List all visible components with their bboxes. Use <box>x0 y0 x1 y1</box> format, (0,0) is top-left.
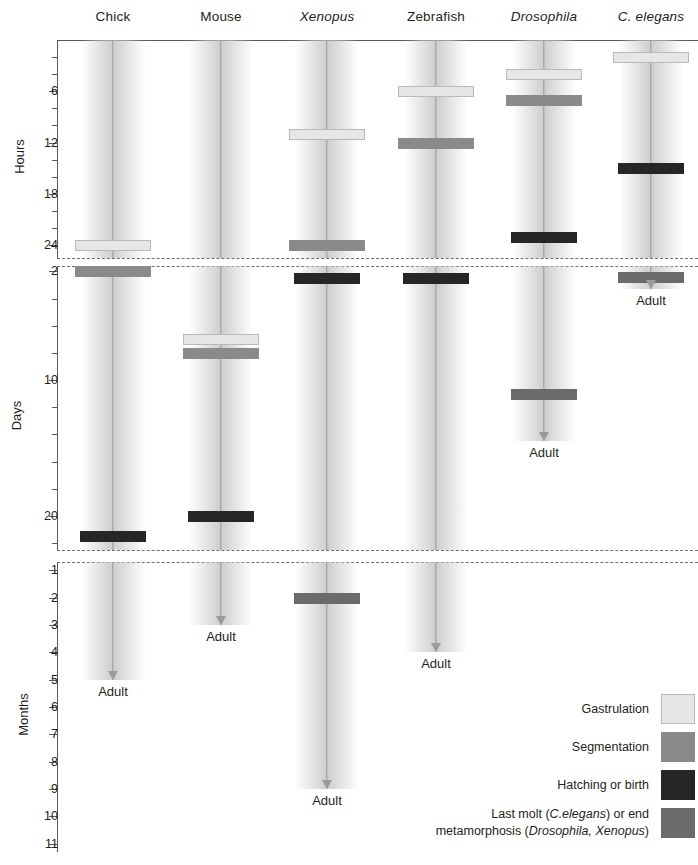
legend-swatch-segmentation <box>661 732 695 762</box>
tick-minor-days-22 <box>52 543 57 544</box>
adult-label-xenopus: Adult <box>312 793 342 808</box>
event-bar-c-elegans-hatching <box>618 163 684 174</box>
tick-label-months-1: 1 <box>18 563 58 577</box>
adult-arrow-c-elegans <box>646 280 656 289</box>
lifeline-chick <box>112 562 113 680</box>
tick-minor-hours-20 <box>52 211 57 212</box>
event-bar-mouse-gastrulation <box>183 334 259 345</box>
event-bar-zebrafish-segmentation <box>398 138 474 149</box>
lifeline-zebrafish <box>435 40 436 258</box>
event-bar-drosophila-segmentation <box>506 95 582 106</box>
adult-arrow-drosophila <box>539 432 549 441</box>
lifeline-mouse <box>220 40 221 258</box>
tick-minor-days-18 <box>52 489 57 490</box>
event-bar-drosophila-molt <box>511 389 577 400</box>
lifeline-xenopus <box>326 266 327 550</box>
tick-label-months-5: 5 <box>18 673 58 687</box>
tick-minor-days-14 <box>52 434 57 435</box>
event-bar-zebrafish-hatching <box>403 273 469 284</box>
tick-label-days-20: 20 <box>18 509 58 523</box>
tick-label-months-10: 10 <box>18 809 58 823</box>
axis-title-days: Days <box>9 401 24 431</box>
plot-top-border <box>57 40 698 41</box>
tick-label-months-9: 9 <box>18 782 58 796</box>
tick-minor-hours-8 <box>52 108 57 109</box>
adult-label-drosophila: Adult <box>529 445 559 460</box>
lifeline-zebrafish <box>435 266 436 550</box>
axis-line-days <box>57 266 58 550</box>
lifeline-xenopus <box>326 40 327 258</box>
legend-label-gastrulation: Gastrulation <box>413 701 649 718</box>
tick-label-days-10: 10 <box>18 373 58 387</box>
adult-arrow-chick <box>108 671 118 680</box>
legend-label-hatching: Hatching or birth <box>413 777 649 794</box>
column-header-zebrafish: Zebrafish <box>407 9 465 24</box>
tick-minor-hours-14 <box>52 160 57 161</box>
adult-arrow-mouse <box>216 616 226 625</box>
legend-row-molt: Last molt (C.elegans) or endmetamorphosi… <box>410 804 695 842</box>
tick-minor-hours-10 <box>52 125 57 126</box>
lifeline-drosophila <box>543 266 544 441</box>
column-header-mouse: Mouse <box>200 9 242 24</box>
legend-swatch-molt <box>661 808 695 838</box>
lifeline-chick <box>112 40 113 258</box>
event-bar-zebrafish-gastrulation <box>398 86 474 97</box>
tick-label-months-2: 2 <box>18 591 58 605</box>
axis-break-dashed-3 <box>57 562 698 563</box>
legend: GastrulationSegmentationHatching or birt… <box>410 690 695 842</box>
column-header-c-elegans: C. elegans <box>618 9 685 24</box>
legend-label-molt: Last molt (C.elegans) or endmetamorphosi… <box>413 806 649 840</box>
event-bar-chick-hatching <box>80 531 146 542</box>
event-bar-xenopus-molt <box>294 593 360 604</box>
event-bar-xenopus-segmentation <box>289 240 365 251</box>
tick-label-days-2: 2 <box>18 264 58 278</box>
axis-title-months: Months <box>16 693 31 736</box>
legend-swatch-gastrulation <box>661 694 695 724</box>
axis-break-dashed-0 <box>57 258 698 259</box>
adult-label-mouse: Adult <box>206 629 236 644</box>
axis-break-dashed-1 <box>57 266 698 267</box>
tick-minor-days-6 <box>52 326 57 327</box>
lifeline-zebrafish <box>435 562 436 652</box>
tick-minor-hours-2 <box>52 57 57 58</box>
event-bar-drosophila-gastrulation <box>506 69 582 80</box>
axis-break-dashed-2 <box>57 550 698 551</box>
event-bar-xenopus-gastrulation <box>289 129 365 140</box>
axis-title-hours: Hours <box>12 139 27 174</box>
legend-swatch-hatching <box>661 770 695 800</box>
tick-label-hours-6: 6 <box>18 84 58 98</box>
legend-row-segmentation: Segmentation <box>410 728 695 766</box>
adult-label-zebrafish: Adult <box>421 656 451 671</box>
tick-minor-days-12 <box>52 407 57 408</box>
event-bar-mouse-segmentation <box>183 348 259 359</box>
legend-row-gastrulation: Gastrulation <box>410 690 695 728</box>
legend-label-segmentation: Segmentation <box>413 739 649 756</box>
event-bar-chick-segmentation <box>75 266 151 277</box>
tick-label-months-4: 4 <box>18 645 58 659</box>
lifeline-c-elegans <box>650 40 651 258</box>
event-bar-xenopus-hatching <box>294 273 360 284</box>
adult-label-chick: Adult <box>98 684 128 699</box>
tick-label-hours-18: 18 <box>18 187 58 201</box>
tick-minor-days-8 <box>52 353 57 354</box>
event-bar-chick-gastrulation <box>75 240 151 251</box>
tick-minor-days-4 <box>52 299 57 300</box>
tick-label-months-11: 11 <box>18 837 58 851</box>
column-header-chick: Chick <box>96 9 131 24</box>
tick-label-months-3: 3 <box>18 618 58 632</box>
legend-row-hatching: Hatching or birth <box>410 766 695 804</box>
tick-label-hours-24: 24 <box>18 238 58 252</box>
tick-minor-hours-4 <box>52 74 57 75</box>
event-bar-drosophila-hatching <box>511 232 577 243</box>
adult-arrow-zebrafish <box>431 643 441 652</box>
lifeline-chick <box>112 266 113 550</box>
event-bar-mouse-hatching <box>188 511 254 522</box>
tick-minor-days-16 <box>52 462 57 463</box>
tick-minor-hours-16 <box>52 177 57 178</box>
column-header-drosophila: Drosophila <box>511 9 578 24</box>
adult-label-c-elegans: Adult <box>636 293 666 308</box>
column-header-xenopus: Xenopus <box>300 9 355 24</box>
tick-label-months-8: 8 <box>18 755 58 769</box>
event-bar-c-elegans-gastrulation <box>613 52 689 63</box>
lifeline-mouse <box>220 266 221 550</box>
